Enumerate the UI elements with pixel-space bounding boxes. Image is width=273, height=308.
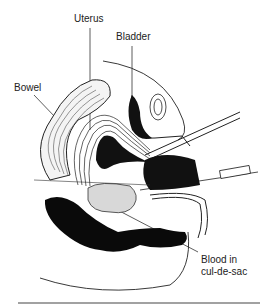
uterus-label: Uterus <box>74 13 103 24</box>
bowel-leader-line <box>34 95 56 118</box>
vaginal-canal <box>143 155 200 190</box>
blood-in-cul-de-sac-region <box>88 183 136 212</box>
blood-label-line2: cul-de-sac <box>201 266 247 277</box>
bladder-label: Bladder <box>116 31 150 42</box>
bowel-label: Bowel <box>14 82 41 93</box>
blood-label-line1: Blood in <box>201 254 237 265</box>
bladder-inner-ring-2 <box>154 99 162 115</box>
instrument-line <box>145 112 240 155</box>
syringe <box>220 165 251 178</box>
bladder-inner-ring <box>150 94 166 120</box>
bladder-wall <box>129 95 153 139</box>
abdominal-wall-outline <box>103 61 185 140</box>
